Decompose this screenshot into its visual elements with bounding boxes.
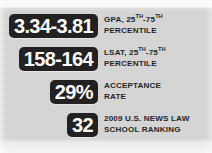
stat-value-ranking: 32 xyxy=(67,113,98,137)
stat-label-ranking-line2: SCHOOL RANKING xyxy=(104,125,212,136)
stat-label-gpa-sup1: TH xyxy=(136,13,143,19)
stat-label-acceptance-line1: ACCEPTANCE xyxy=(104,81,212,92)
stat-value-acceptance: 29% xyxy=(50,80,98,104)
law-school-stats-panel: 3.34-3.81 GPA, 25TH-75TH PERCENTILE 158-… xyxy=(0,0,212,153)
stat-label-gpa-line1-pre: GPA, 25 xyxy=(104,15,136,24)
stat-label-gpa-line1: GPA, 25TH-75TH xyxy=(104,15,212,26)
stat-label-gpa-line2: PERCENTILE xyxy=(104,26,212,37)
badge-container-acceptance: 29% xyxy=(0,80,98,104)
stat-label-lsat-sup2: TH xyxy=(158,46,165,52)
stat-label-lsat-line1-pre: LSAT, 25 xyxy=(104,48,138,57)
stat-label-ranking: 2009 U.S. NEWS LAW SCHOOL RANKING xyxy=(98,113,212,135)
stat-label-lsat-line2: PERCENTILE xyxy=(104,59,212,70)
stat-label-lsat-line1: LSAT, 25TH-75TH xyxy=(104,48,212,59)
stat-label-gpa: GPA, 25TH-75TH PERCENTILE xyxy=(98,14,212,36)
stat-value-gpa: 3.34-3.81 xyxy=(9,14,98,38)
stat-label-gpa-line1-mid: -75 xyxy=(143,15,155,24)
stat-row-lsat: 158-164 LSAT, 25TH-75TH PERCENTILE xyxy=(0,47,212,71)
badge-container-ranking: 32 xyxy=(0,113,98,137)
stat-label-gpa-sup2: TH xyxy=(155,13,162,19)
stat-label-ranking-line1: 2009 U.S. NEWS LAW xyxy=(104,114,212,125)
stat-row-ranking: 32 2009 U.S. NEWS LAW SCHOOL RANKING xyxy=(0,113,212,137)
stat-label-lsat-line1-mid: -75 xyxy=(146,48,158,57)
stat-row-gpa: 3.34-3.81 GPA, 25TH-75TH PERCENTILE xyxy=(0,14,212,38)
stat-value-lsat: 158-164 xyxy=(19,47,98,71)
stat-label-acceptance: ACCEPTANCE RATE xyxy=(98,80,212,102)
stat-label-acceptance-line2: RATE xyxy=(104,92,212,103)
badge-container-lsat: 158-164 xyxy=(0,47,98,71)
stat-label-lsat: LSAT, 25TH-75TH PERCENTILE xyxy=(98,47,212,69)
badge-container-gpa: 3.34-3.81 xyxy=(0,14,98,38)
stat-row-acceptance: 29% ACCEPTANCE RATE xyxy=(0,80,212,104)
stat-label-lsat-sup1: TH xyxy=(138,46,145,52)
